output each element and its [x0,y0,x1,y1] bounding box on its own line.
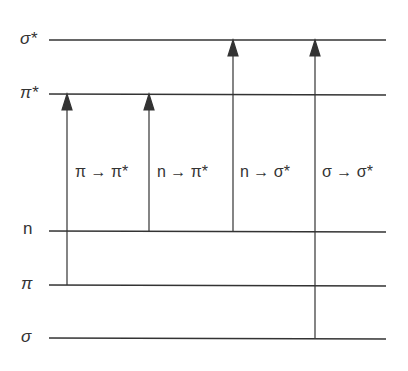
arrowhead-icon [228,40,238,56]
level-label-sigma: σ [21,327,31,347]
level-line-pi-star [49,94,386,95]
arrowhead-icon [144,94,154,110]
transition-label-pi-pi-star: π → π* [75,163,128,181]
arrowhead-icon [62,94,72,110]
transition-label-sigma-sigma-star: σ → σ* [322,163,373,181]
level-line-sigma [49,338,386,339]
level-label-pi: π [21,274,32,294]
level-label-pi-star: π* [20,83,38,103]
level-label-n: n [23,219,32,239]
level-line-pi [49,285,386,286]
level-line-n [49,231,386,232]
transition-label-n-pi-star: n → π* [157,163,208,181]
diagram-canvas [0,0,408,371]
level-label-sigma-star: σ* [20,29,37,49]
transition-label-n-sigma-star: n → σ* [240,163,290,181]
arrowhead-icon [310,40,320,56]
